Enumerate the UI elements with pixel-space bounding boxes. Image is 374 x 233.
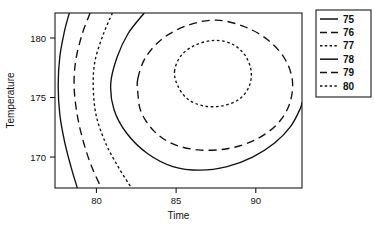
contour-plot-figure: 808590 170175180 Time Temperature 757677… (0, 0, 374, 233)
legend-label-76: 76 (343, 27, 355, 38)
y-tick-label-170: 170 (30, 152, 46, 163)
y-tick-label-175: 175 (30, 92, 46, 103)
x-tick-label-80: 80 (91, 195, 102, 206)
y-axis-title: Temperature (5, 72, 16, 129)
contour-plot-canvas: 808590 170175180 Time Temperature 757677… (0, 0, 374, 233)
legend-label-78: 78 (343, 54, 355, 65)
x-tick-label-85: 85 (171, 195, 182, 206)
legend-label-80: 80 (343, 81, 355, 92)
legend: 757677787980 (316, 10, 371, 97)
legend-label-79: 79 (343, 67, 355, 78)
legend-label-77: 77 (343, 40, 355, 51)
x-axis-title: Time (168, 210, 190, 221)
y-tick-label-180: 180 (30, 33, 46, 44)
legend-label-75: 75 (343, 14, 355, 25)
x-tick-label-90: 90 (250, 195, 261, 206)
